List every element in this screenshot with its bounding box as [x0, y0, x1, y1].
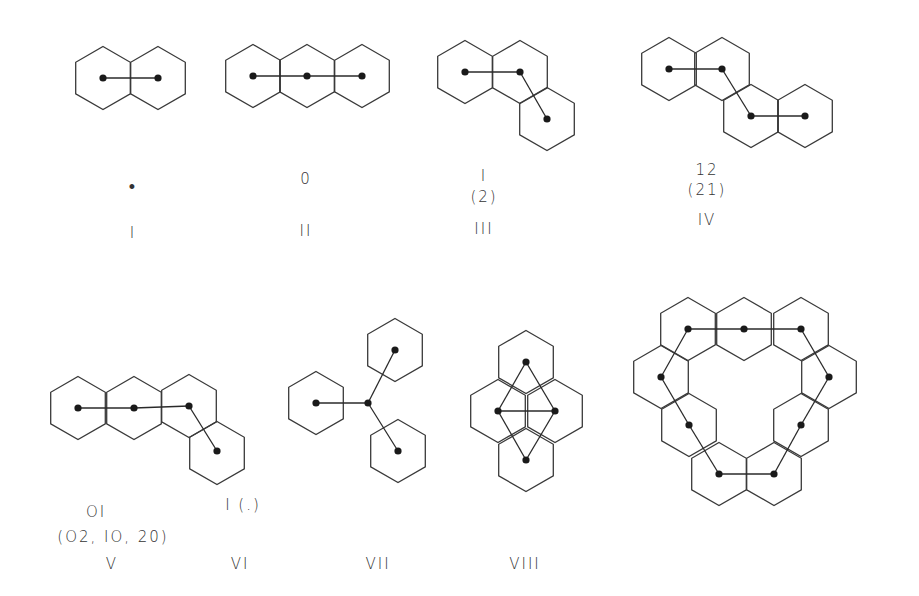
molecule-VI-numeral: VI	[231, 557, 250, 572]
molecule-II-numeral: II	[300, 224, 313, 239]
graph-node	[394, 447, 401, 454]
graph-edge	[722, 69, 751, 116]
graph-node	[825, 373, 832, 380]
molecule-IV-code: 12	[695, 163, 718, 178]
graph-edge	[189, 406, 217, 451]
graph-edge	[498, 411, 526, 460]
graph-node	[516, 68, 523, 75]
graph-edge	[661, 377, 689, 425]
graph-edge	[801, 329, 829, 377]
graph-node	[684, 325, 691, 332]
molecule-II-code: 0	[300, 172, 312, 187]
graph-edge	[801, 377, 829, 425]
molecule-VII-numeral: VII	[365, 557, 390, 572]
molecule-I-code-dot: •	[129, 178, 137, 196]
graph-edge	[520, 72, 547, 119]
graph-node	[99, 74, 106, 81]
molecule-V-numeral: V	[106, 557, 118, 572]
graph-edge	[526, 411, 555, 460]
molecule-IV-alt-code: (21)	[688, 183, 727, 198]
graph-node	[740, 325, 747, 332]
graph-node	[494, 407, 501, 414]
graph-node	[770, 470, 777, 477]
graph-edge	[774, 425, 801, 474]
molecule-II	[226, 45, 390, 108]
graph-node	[358, 72, 365, 79]
graph-node	[551, 407, 558, 414]
benzenoid-diagram	[0, 0, 919, 596]
molecule-III-numeral: III	[474, 222, 493, 237]
graph-node	[747, 112, 754, 119]
graph-node	[718, 65, 725, 72]
graph-node	[364, 399, 371, 406]
molecule-I-numeral: I	[130, 226, 136, 241]
graph-node	[154, 74, 161, 81]
molecule-VII	[471, 331, 583, 492]
graph-node	[797, 421, 804, 428]
molecule-III-code: I	[481, 169, 487, 184]
graph-node	[522, 456, 529, 463]
molecule-V-code: OI	[86, 505, 106, 520]
graph-node	[461, 68, 468, 75]
graph-edge	[526, 362, 555, 411]
molecule-IV-numeral: IV	[698, 213, 717, 228]
graph-node	[543, 115, 550, 122]
graph-node	[312, 399, 319, 406]
graph-node	[801, 112, 808, 119]
graph-node	[665, 65, 672, 72]
graph-node	[249, 72, 256, 79]
molecule-III-alt-code: (2)	[470, 190, 497, 205]
molecule-VIII-numeral: VIII	[509, 557, 541, 572]
graph-node	[303, 72, 310, 79]
graph-node	[797, 325, 804, 332]
graph-node	[185, 402, 192, 409]
graph-edge	[368, 403, 398, 451]
graph-node	[213, 447, 220, 454]
molecule-IV	[642, 38, 833, 148]
molecule-VI	[289, 319, 426, 483]
molecule-V	[51, 375, 245, 485]
molecule-VI-code: I (.)	[225, 498, 261, 513]
graph-node	[685, 421, 692, 428]
graph-node	[130, 404, 137, 411]
graph-node	[657, 373, 664, 380]
graph-node	[522, 358, 529, 365]
molecule-III	[438, 41, 575, 151]
graph-edge	[498, 362, 526, 411]
molecule-V-alt-code: (O2, IO, 20)	[57, 530, 168, 545]
molecule-I	[76, 47, 186, 110]
graph-edge	[689, 425, 719, 474]
graph-edge	[368, 350, 395, 403]
graph-node	[391, 346, 398, 353]
graph-node	[715, 470, 722, 477]
molecule-VIII	[634, 298, 857, 506]
graph-edge	[661, 329, 688, 377]
graph-node	[74, 404, 81, 411]
